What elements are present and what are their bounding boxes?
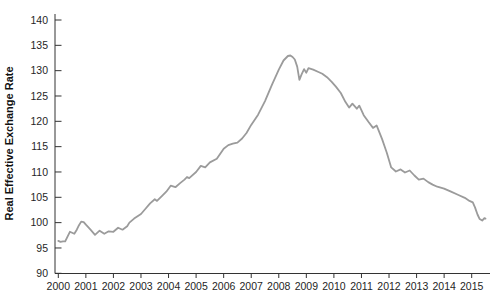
y-axis-ticks: 9095100105110115120125130135140	[30, 14, 61, 279]
reer-line-chart: 9095100105110115120125130135140 20002001…	[0, 0, 495, 307]
reer-series-line	[58, 56, 485, 242]
y-tick-label: 95	[36, 242, 48, 254]
y-tick-label: 115	[31, 140, 48, 152]
y-tick-label: 130	[30, 64, 48, 76]
y-tick-label: 100	[30, 216, 48, 228]
y-tick-label: 140	[30, 14, 48, 26]
y-tick-label: 125	[30, 90, 48, 102]
x-tick-label: 2004	[157, 280, 181, 292]
x-tick-label: 2002	[102, 280, 126, 292]
x-tick-label: 2005	[184, 280, 208, 292]
x-tick-label: 2014	[432, 280, 456, 292]
y-tick-label: 105	[30, 191, 48, 203]
x-tick-label: 2003	[129, 280, 153, 292]
x-tick-label: 2009	[295, 280, 319, 292]
chart-canvas: 9095100105110115120125130135140 20002001…	[0, 0, 495, 307]
y-tick-label: 110	[31, 166, 48, 178]
x-tick-label: 2007	[240, 280, 264, 292]
y-tick-label: 90	[36, 267, 48, 279]
y-tick-label: 120	[30, 115, 48, 127]
x-tick-label: 2008	[267, 280, 291, 292]
x-tick-label: 2013	[405, 280, 429, 292]
y-axis-title: Real Effective Exchange Rate	[3, 66, 15, 220]
x-tick-label: 2015	[460, 280, 484, 292]
x-tick-label: 2010	[322, 280, 346, 292]
x-axis-ticks: 2000200120022003200420052006200720082009…	[47, 274, 484, 292]
x-tick-label: 2011	[350, 280, 373, 292]
x-tick-label: 2001	[74, 280, 98, 292]
x-tick-label: 2012	[377, 280, 401, 292]
x-tick-label: 2006	[212, 280, 236, 292]
y-tick-label: 135	[30, 39, 48, 51]
x-tick-label: 2000	[47, 280, 71, 292]
